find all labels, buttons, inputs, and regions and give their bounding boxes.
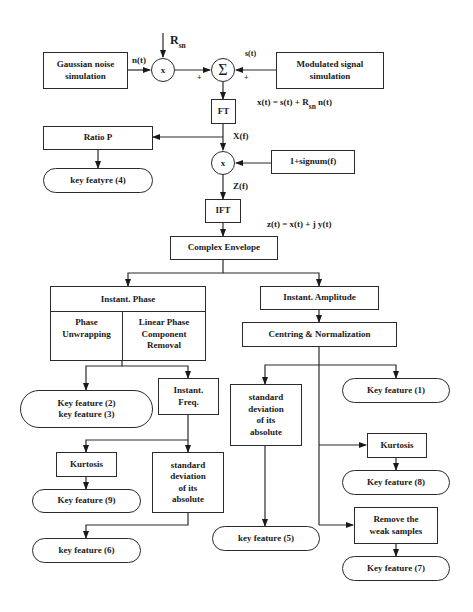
signum-block: 1+signum(f) xyxy=(271,150,355,174)
inverse-fourier-transform-block: IFT xyxy=(205,199,241,223)
key-feature-5: key feature (5) xyxy=(212,526,320,551)
key-feature-9: Key feature (9) xyxy=(32,489,141,513)
instant-phase-title: Instant. Phase xyxy=(51,287,205,312)
plus-sign-right: + xyxy=(244,73,249,82)
instant-amplitude-block: Instant. Amplitude xyxy=(260,286,379,310)
x-t-equation: x(t) = s(t) + Rsn n(t) xyxy=(257,97,332,107)
noise-signal-label: n(t) xyxy=(132,55,146,65)
key-feature-2-3: Key feature (2) key feature (3) xyxy=(20,390,153,428)
fourier-transform-block: FT xyxy=(211,99,236,124)
spectrum-x-label: X(f) xyxy=(233,131,249,141)
key-feature-8: Key feature (8) xyxy=(342,470,450,495)
remove-weak-samples-block: Remove the weak samples xyxy=(354,507,438,544)
multiply-icon: x xyxy=(161,65,166,75)
plus-sign-left: + xyxy=(197,73,202,82)
sigma-icon: Σ xyxy=(218,61,227,79)
std-abs-amplitude-block: standard deviation of its absolute xyxy=(230,384,302,446)
multiply-noise-operator: x xyxy=(151,58,175,82)
gain-label: Rsn xyxy=(170,33,186,48)
z-t-equation: z(t) = x(t) + j y(t) xyxy=(267,219,331,229)
phase-unwrapping-block: Phase Unwrapping xyxy=(51,312,123,361)
kurtosis-amplitude-block: Kurtosis xyxy=(367,433,427,458)
modulated-signal-simulation-block: Modulated signal simulation xyxy=(276,52,384,89)
sum-operator: Σ xyxy=(211,58,235,82)
std-abs-frequency-block: standard deviation of its absolute xyxy=(152,452,224,513)
key-feature-6: key feature (6) xyxy=(32,538,141,563)
modulated-signal-label: s(t) xyxy=(245,49,256,58)
key-feature-4: key featyre (4) xyxy=(43,168,153,193)
multiply-spectrum-operator: x xyxy=(211,151,235,175)
instant-phase-block: Instant. Phase Phase Unwrapping Linear P… xyxy=(50,286,206,361)
spectrum-z-label: Z(f) xyxy=(233,181,248,191)
complex-envelope-block: Complex Envelope xyxy=(170,236,278,260)
key-feature-1: Key feature (1) xyxy=(342,378,450,403)
linear-phase-removal-block: Linear Phase Component Removal xyxy=(123,312,205,361)
kurtosis-frequency-block: Kurtosis xyxy=(56,452,117,477)
gaussian-noise-simulation-block: Gaussian noise simulation xyxy=(43,52,128,89)
instant-frequency-block: Instant. Freq. xyxy=(158,378,219,415)
ratio-p-block: Ratio P xyxy=(43,126,153,150)
multiply-icon: x xyxy=(221,158,226,168)
centring-normalization-block: Centring & Normalization xyxy=(242,322,397,347)
key-feature-7: Key feature (7) xyxy=(342,556,450,581)
